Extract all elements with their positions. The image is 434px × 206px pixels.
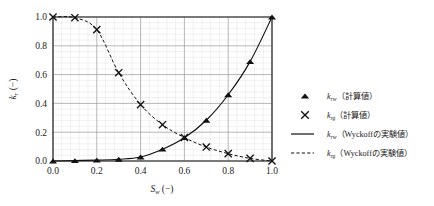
relative-permeability-chart: 0.00.20.40.60.81.0 0.00.20.40.60.81.0 Sw… bbox=[0, 0, 434, 206]
x-axis-tick-labels: 0.00.20.40.60.81.0 bbox=[47, 166, 278, 176]
legend-label: krg（計算値） bbox=[327, 110, 375, 121]
legend-label: krw（Wyckoffの実験値） bbox=[327, 129, 413, 140]
y-tick-label: 1.0 bbox=[35, 12, 47, 22]
y-tick-label: 0.0 bbox=[35, 156, 47, 166]
x-tick-label: 0.8 bbox=[222, 166, 234, 176]
legend: krw（計算値）krg（計算値）krw（Wyckoffの実験値）krg（Wyck… bbox=[291, 91, 413, 159]
x-tick-label: 1.0 bbox=[266, 166, 278, 176]
plot-background bbox=[53, 17, 272, 161]
legend-entry: krw（計算値） bbox=[301, 91, 377, 102]
x-tick-label: 0.6 bbox=[178, 166, 190, 176]
legend-entry: krw（Wyckoffの実験値） bbox=[291, 129, 413, 140]
x-axis-title: Sw (−) bbox=[150, 184, 173, 195]
x-tick-label: 0.0 bbox=[47, 166, 59, 176]
x-tick-label: 0.4 bbox=[135, 166, 147, 176]
svg-text:kr (−): kr (−) bbox=[8, 79, 19, 100]
y-tick-label: 0.6 bbox=[35, 70, 47, 80]
y-tick-label: 0.4 bbox=[35, 99, 47, 109]
legend-triangle-icon bbox=[301, 93, 309, 98]
y-axis-tick-labels: 0.00.20.40.60.81.0 bbox=[35, 12, 47, 166]
legend-entry: krg（計算値） bbox=[301, 110, 375, 121]
x-tick-label: 0.2 bbox=[91, 166, 103, 176]
y-tick-label: 0.8 bbox=[35, 41, 47, 51]
svg-text:Sw (−): Sw (−) bbox=[150, 184, 173, 195]
y-axis-title: kr (−) bbox=[8, 79, 19, 100]
figure-container: 0.00.20.40.60.81.0 0.00.20.40.60.81.0 Sw… bbox=[0, 0, 434, 206]
y-tick-label: 0.2 bbox=[35, 128, 47, 138]
legend-label: krw（計算値） bbox=[327, 91, 377, 102]
legend-label: krg（Wyckoffの実験値） bbox=[327, 148, 412, 159]
legend-entry: krg（Wyckoffの実験値） bbox=[291, 148, 412, 159]
